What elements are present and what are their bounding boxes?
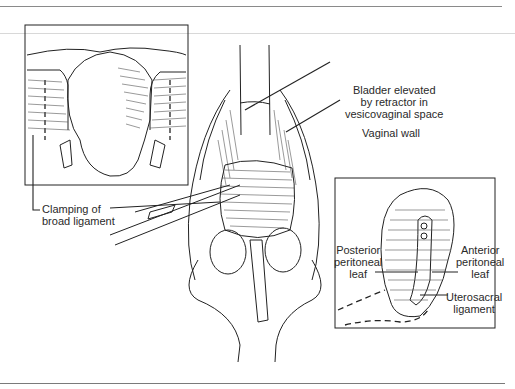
label-uterosacral: Uterosacral ligament xyxy=(446,291,502,315)
label-clamping: Clamping of broad ligament xyxy=(42,203,115,227)
label-line: Anterior xyxy=(456,244,504,256)
label-line: Bladder elevated xyxy=(345,84,443,96)
label-line: Uterosacral xyxy=(446,291,502,303)
label-line: leaf xyxy=(456,268,504,280)
label-line: vesicovaginal space xyxy=(345,108,443,120)
label-line: by retractor in xyxy=(345,96,443,108)
label-line: broad ligament xyxy=(42,215,115,227)
label-line: leaf xyxy=(334,268,382,280)
label-bladder: Bladder elevated by retractor in vesicov… xyxy=(345,84,443,120)
label-line: ligament xyxy=(446,303,502,315)
inset-uterus xyxy=(25,25,188,210)
label-line: Clamping of xyxy=(42,203,115,215)
label-posterior-leaf: Posterior peritoneal leaf xyxy=(334,244,382,280)
label-anterior-leaf: Anterior peritoneal leaf xyxy=(456,244,504,280)
surgical-illustration xyxy=(0,0,515,389)
central-view xyxy=(110,45,340,362)
label-line: peritoneal xyxy=(334,256,382,268)
label-vaginal-wall: Vaginal wall xyxy=(362,127,420,139)
label-line: Posterior xyxy=(334,244,382,256)
label-line: peritoneal xyxy=(456,256,504,268)
